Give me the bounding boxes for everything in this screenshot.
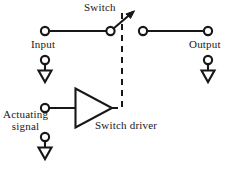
figure-canvas: Switch Input Output Switch driver Actuat…	[0, 0, 230, 171]
actuating-ground-icon	[39, 133, 52, 159]
input-terminal-node	[41, 27, 49, 35]
actuating-signal-label-line1: Actuating	[3, 108, 48, 120]
input-ground-icon	[39, 56, 52, 82]
output-ground-icon	[202, 56, 215, 82]
switch-right-contact-node	[139, 27, 147, 35]
switch-driver-label: Switch driver	[95, 119, 157, 131]
actuating-signal-label: Actuating signal	[3, 108, 48, 132]
switch-driver-schematic	[0, 0, 230, 171]
input-label: Input	[31, 38, 55, 50]
output-terminal-node	[204, 27, 212, 35]
actuating-signal-label-line2: signal	[3, 120, 48, 132]
switch-blade-icon	[114, 11, 135, 29]
output-label: Output	[189, 38, 221, 50]
switch-label: Switch	[84, 1, 116, 13]
